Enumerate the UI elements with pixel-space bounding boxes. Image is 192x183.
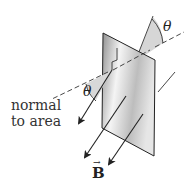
- field-line-right-upper: [158, 72, 175, 92]
- theta-left-label: θ: [83, 83, 92, 99]
- normal-label-line2: to area: [6, 113, 66, 129]
- normal-label-line1: normal: [6, 97, 66, 113]
- normal-to-area-label: normal to area: [6, 97, 66, 129]
- diagram-svg: θ θ B →: [0, 0, 192, 183]
- theta-top-label: θ: [163, 18, 172, 34]
- field-vector-arrow: →: [93, 157, 101, 167]
- magnetic-flux-diagram: θ θ B → normal to area: [0, 0, 192, 183]
